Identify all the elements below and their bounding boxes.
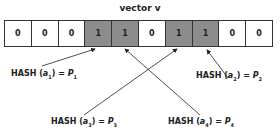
hash-label-2: HASH (a2) = P2	[196, 71, 262, 82]
hash-label-4: HASH (a4) = P4	[168, 117, 234, 128]
hash-label-3: HASH (a3) = P3	[51, 117, 117, 128]
hash-label-1: HASH (a1) = P1	[11, 69, 77, 80]
